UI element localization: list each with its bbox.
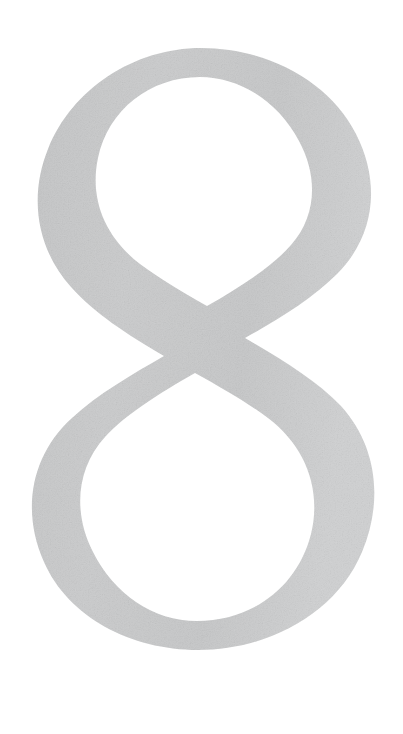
numeral-eight-artwork: Large light gray numeral 8 [0, 0, 403, 734]
paper-grain-overlay [32, 48, 374, 650]
page-canvas: Large light gray numeral 8 [0, 0, 403, 734]
numeral-eight-icon: Large light gray numeral 8 [0, 0, 403, 734]
